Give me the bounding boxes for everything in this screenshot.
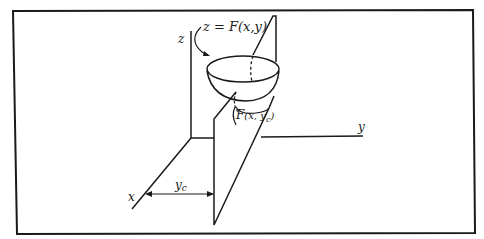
x-axis-label: x [128,190,135,204]
yc-arrowhead-right [207,191,214,197]
y-axis-label: y [357,120,365,134]
diagram-canvas: z y x z = F(x,y) F(x, yc) yc [0,0,484,239]
surface-label: z = F(x,y) [202,19,267,34]
bowl-rim [207,56,279,82]
z-axis-label: z [177,32,185,46]
y-axis [261,136,363,137]
bowl-body [207,71,279,101]
surface-leader-arrowhead [203,51,210,56]
x-axis [132,138,191,209]
yc-label: yc [174,178,187,193]
hidden-section-curve [251,56,253,82]
figure-frame [13,10,475,234]
